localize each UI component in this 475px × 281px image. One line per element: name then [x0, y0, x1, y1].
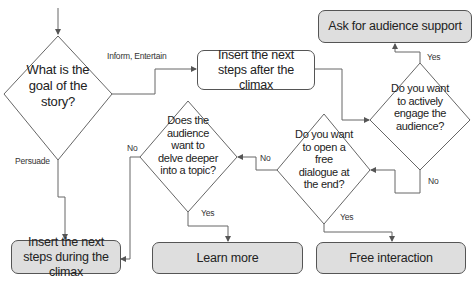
edge-label-persuade: Persuade — [15, 156, 50, 166]
action-during-climax: Insert the next steps during the climax — [11, 240, 121, 274]
action-during-climax-label: Insert the next steps during the climax — [16, 235, 116, 280]
edge-label-engage-no: No — [428, 176, 438, 186]
decision-dialogue: Do you want to open a free dialogue at t… — [295, 128, 353, 191]
edge-label-delve-no: No — [127, 143, 137, 153]
decision-delve: Does the audience want to delve deeper i… — [158, 114, 218, 177]
edge-label-inform-entertain: Inform, Entertain — [107, 51, 166, 61]
action-free-interaction: Free interaction — [316, 242, 466, 274]
edge-label-delve-yes: Yes — [201, 208, 214, 218]
action-ask-support-label: Ask for audience support — [328, 19, 461, 34]
action-after-climax-label: Insert the next steps after the climax — [206, 48, 306, 93]
action-learn-more-label: Learn more — [197, 251, 259, 266]
action-ask-support: Ask for audience support — [318, 10, 472, 43]
action-learn-more: Learn more — [152, 242, 303, 274]
edge-label-engage-yes: Yes — [427, 52, 440, 62]
decision-engage: Do you want to actively engage the audie… — [388, 82, 452, 132]
edge-label-dialogue-yes: Yes — [340, 212, 353, 222]
decision-goal: What is the goal of the story? — [24, 62, 92, 110]
action-after-climax: Insert the next steps after the climax — [197, 50, 315, 90]
edge-label-dialogue-no: No — [260, 153, 270, 163]
action-free-interaction-label: Free interaction — [349, 251, 433, 266]
